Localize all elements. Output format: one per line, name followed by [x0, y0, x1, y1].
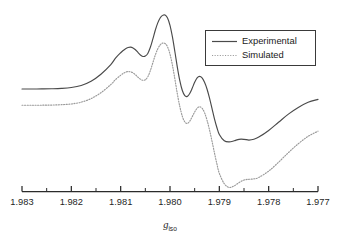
x-axis-tick-label: 1.980: [158, 197, 181, 207]
x-axis-title: giso: [163, 219, 177, 232]
x-axis-tick-label: 1.982: [60, 197, 83, 207]
x-axis-tick-label: 1.983: [10, 197, 33, 207]
epr-spectrum-figure: Experimental Simulated 1.9831.9821.9811.…: [0, 0, 341, 242]
x-axis-tick-label: 1.977: [306, 197, 329, 207]
x-axis-ticks: [22, 186, 318, 192]
x-axis: 1.9831.9821.9811.9801.9791.9781.977 giso: [10, 186, 329, 232]
x-axis-tick-labels: 1.9831.9821.9811.9801.9791.9781.977: [10, 197, 329, 207]
x-axis-tick-label: 1.979: [208, 197, 231, 207]
chart-canvas: Experimental Simulated 1.9831.9821.9811.…: [0, 0, 341, 242]
chart-legend: Experimental Simulated: [206, 31, 316, 66]
x-axis-tick-label: 1.978: [257, 197, 280, 207]
legend-label-experimental: Experimental: [242, 35, 297, 46]
x-axis-title-subscript: iso: [168, 225, 177, 232]
legend-label-simulated: Simulated: [242, 49, 284, 60]
x-axis-tick-label: 1.981: [109, 197, 132, 207]
